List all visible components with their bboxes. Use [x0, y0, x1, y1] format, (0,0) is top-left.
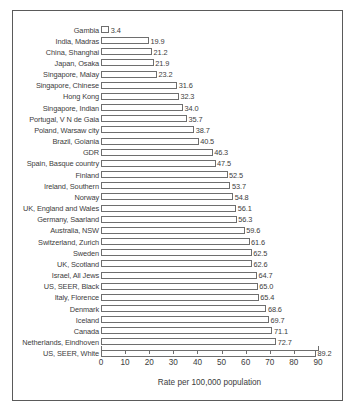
bar: [101, 82, 177, 89]
bar-value-label: 34.0: [184, 103, 198, 114]
category-label: UK, England and Wales: [23, 203, 99, 214]
bar: [101, 294, 259, 301]
bar: [101, 272, 257, 279]
chart-row: China, Shanghai21.2: [0, 47, 353, 58]
chart-row: Singapore, Chinese31.6: [0, 80, 353, 91]
bar: [101, 126, 194, 133]
x-axis-tick: [246, 350, 247, 354]
chart-figure: Rate per 100,000 population Gambia3.4Ind…: [0, 0, 353, 412]
category-label: Sweden: [73, 248, 99, 259]
category-label: Iceland: [76, 315, 99, 326]
x-axis-tick: [149, 350, 150, 354]
category-label: Italy, Florence: [55, 292, 99, 303]
chart-row: Portugal, V N de Gaia35.7: [0, 114, 353, 125]
x-axis-tick: [173, 350, 174, 354]
chart-row: Gambia3.4: [0, 25, 353, 36]
bar-value-label: 56.3: [238, 214, 252, 225]
bar-value-label: 65.0: [259, 281, 273, 292]
x-axis-tick-label: 60: [233, 357, 259, 368]
chart-row: Australia, NSW59.6: [0, 225, 353, 236]
x-axis-tick: [101, 346, 102, 351]
bar: [101, 316, 269, 323]
bar: [101, 260, 252, 267]
chart-row: GDR46.3: [0, 147, 353, 158]
bar-value-label: 21.9: [155, 58, 169, 69]
bar: [101, 205, 236, 212]
chart-row: Japan, Osaka21.9: [0, 58, 353, 69]
chart-row: Italy, Florence65.4: [0, 292, 353, 303]
category-label: Japan, Osaka: [55, 58, 99, 69]
category-label: UK, Scotland: [57, 259, 99, 270]
chart-row: Sweden62.5: [0, 248, 353, 259]
chart-row: US, SEER, Black65.0: [0, 281, 353, 292]
x-axis-tick-label: 30: [160, 357, 186, 368]
category-label: Finland: [75, 170, 99, 181]
bar-value-label: 23.2: [158, 69, 172, 80]
bar-value-label: 52.5: [229, 170, 243, 181]
category-label: Canada: [74, 326, 99, 337]
bar: [101, 71, 157, 78]
category-label: India, Madras: [56, 36, 99, 47]
bar-value-label: 31.6: [179, 80, 193, 91]
category-label: Portugal, V N de Gaia: [29, 114, 99, 125]
bar: [101, 48, 152, 55]
bar: [101, 37, 149, 44]
chart-row: India, Madras19.9: [0, 36, 353, 47]
category-label: Israel, All Jews: [52, 270, 99, 281]
category-label: Switzerland, Zurich: [38, 237, 99, 248]
bar-value-label: 72.7: [278, 337, 292, 348]
x-axis-tick-label: 70: [257, 357, 283, 368]
bar: [101, 350, 316, 357]
category-label: Denmark: [70, 304, 99, 315]
chart-row: Finland52.5: [0, 170, 353, 181]
bar-value-label: 65.4: [260, 292, 274, 303]
bar-value-label: 38.7: [196, 125, 210, 136]
bar: [101, 216, 237, 223]
bar-value-label: 59.6: [246, 225, 260, 236]
category-label: Gambia: [74, 25, 99, 36]
category-label: Norway: [75, 192, 99, 203]
chart-row: Israel, All Jews64.7: [0, 270, 353, 281]
category-label: Poland, Warsaw city: [34, 125, 99, 136]
bar: [101, 149, 213, 156]
bar-value-label: 62.5: [253, 248, 267, 259]
bar: [101, 193, 233, 200]
bar: [101, 26, 109, 33]
bar: [101, 93, 179, 100]
chart-row: Singapore, Malay23.2: [0, 69, 353, 80]
category-label: Singapore, Indian: [43, 103, 99, 114]
bar-value-label: 19.9: [150, 36, 164, 47]
bar-value-label: 68.6: [268, 304, 282, 315]
chart-row: Germany, Saarland56.3: [0, 214, 353, 225]
category-label: Singapore, Malay: [43, 69, 99, 80]
x-axis-tick-label: 50: [209, 357, 235, 368]
x-axis-tick-label: 20: [136, 357, 162, 368]
bar-value-label: 69.7: [271, 315, 285, 326]
category-label: Brazil, Goiania: [52, 136, 99, 147]
bar: [101, 305, 266, 312]
x-axis-title: Rate per 100,000 population: [101, 378, 318, 387]
bar-value-label: 71.1: [274, 326, 288, 337]
chart-row: UK, England and Wales56.1: [0, 203, 353, 214]
bar: [101, 160, 216, 167]
x-axis-tick-label: 80: [281, 357, 307, 368]
bar-value-label: 56.1: [238, 203, 252, 214]
chart-row: Poland, Warsaw city38.7: [0, 125, 353, 136]
chart-row: Canada71.1: [0, 326, 353, 337]
bar-value-label: 32.3: [180, 91, 194, 102]
category-label: Spain, Basque country: [27, 158, 99, 169]
category-label: Germany, Saarland: [37, 214, 99, 225]
x-axis-tick: [294, 350, 295, 354]
bar-value-label: 54.8: [235, 192, 249, 203]
plot-area: Rate per 100,000 population Gambia3.4Ind…: [0, 0, 353, 412]
chart-row: Iceland69.7: [0, 315, 353, 326]
bar: [101, 138, 199, 145]
x-axis-tick-label: 0: [88, 357, 114, 368]
bar: [101, 59, 154, 66]
x-axis-tick: [318, 346, 319, 351]
chart-row: Brazil, Goiania40.5: [0, 136, 353, 147]
x-axis-tick: [222, 350, 223, 354]
chart-row: Spain, Basque country47.5: [0, 158, 353, 169]
category-label: Hong Kong: [63, 91, 99, 102]
bar: [101, 249, 252, 256]
